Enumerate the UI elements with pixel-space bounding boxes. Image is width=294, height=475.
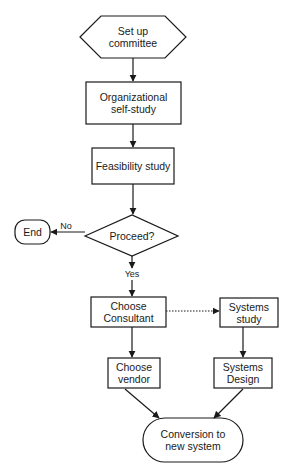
edge-label-no: No (56, 220, 76, 232)
edge-design-conversion (214, 389, 243, 418)
vendor-label: Choose vendor (108, 358, 160, 388)
consultant-label: Choose Consultant (91, 297, 166, 327)
edge-label-yes: Yes (120, 268, 144, 280)
systems-design-label: Systems Design (214, 358, 272, 388)
systems-study-label: Systems study (220, 298, 278, 327)
self-study-label: Organizational self-study (86, 82, 181, 124)
edge-vendor-conversion (125, 389, 159, 418)
conversion-label: Conversion to new system (143, 418, 243, 462)
feasibility-label: Feasibility study (92, 148, 174, 184)
proceed-label: Proceed? (100, 225, 164, 247)
setup-committee-label: Set up committee (100, 16, 166, 58)
end-label: End (15, 220, 50, 244)
